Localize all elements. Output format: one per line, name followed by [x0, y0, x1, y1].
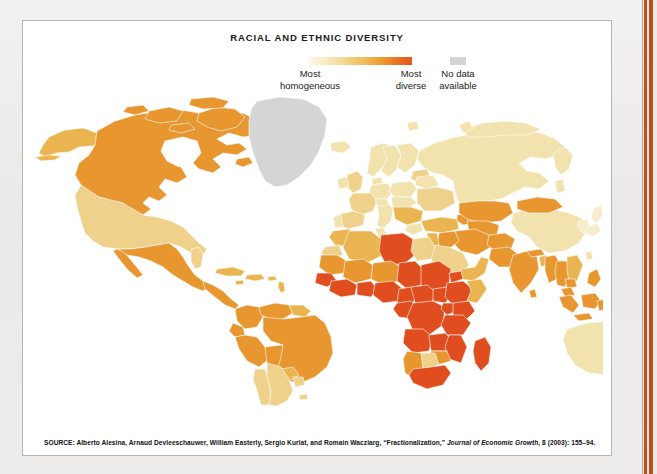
region-greenland-no-data [249, 97, 327, 187]
source-suffix: , 8 (2003): 155–94. [538, 439, 595, 446]
region-madagascar [473, 337, 491, 371]
region-china [511, 209, 587, 253]
legend-nodata-line2: available [418, 80, 498, 92]
region-falklands [299, 394, 308, 400]
region-siberia-north [463, 121, 541, 137]
region-sri-lanka [529, 289, 537, 298]
region-central-america [203, 281, 239, 309]
region-sulawesi [597, 299, 603, 311]
region-iceland [331, 141, 351, 153]
region-hispaniola [245, 274, 265, 281]
region-greece [405, 223, 423, 235]
region-philippines [587, 269, 601, 287]
region-kamchatka [553, 147, 573, 175]
region-united-kingdom [347, 171, 363, 193]
legend-label-nodata: No data available [418, 68, 498, 91]
region-peru [235, 335, 269, 367]
region-svalbard [407, 121, 419, 131]
region-japan [591, 205, 603, 223]
legend-nodata-swatch [450, 57, 466, 65]
region-jamaica [235, 280, 244, 285]
region-india [509, 251, 539, 293]
region-balkans [393, 207, 423, 225]
edge-stripe-1 [642, 0, 643, 474]
region-egypt [411, 237, 435, 261]
region-portugal [333, 215, 343, 228]
region-sakhalin [555, 179, 565, 193]
region-poland [389, 181, 417, 197]
region-alps-switzerland [375, 199, 389, 206]
region-chad [397, 261, 423, 289]
legend-gradient-bar [308, 57, 412, 65]
region-romania-ukraine [417, 187, 455, 211]
edge-stripe-5 [653, 0, 657, 474]
region-lesser-antilles [278, 281, 285, 293]
source-prefix: SOURCE: Alberto Alesina, Arnaud Devleesc… [44, 439, 447, 446]
region-niger [371, 261, 401, 285]
region-cuba [215, 267, 245, 276]
region-guyanas [289, 305, 311, 317]
region-java [573, 313, 593, 321]
region-south-africa [409, 365, 451, 389]
region-mauritania [319, 255, 347, 275]
region-ireland [337, 177, 349, 189]
region-libya [379, 233, 415, 265]
page-edge-stripes [639, 0, 657, 474]
region-newfoundland [235, 157, 253, 167]
region-australia [563, 321, 603, 375]
figure-title: RACIAL AND ETHNIC DIVERSITY [23, 32, 611, 43]
region-uruguay [293, 377, 305, 387]
region-finland [397, 143, 419, 173]
region-algeria [343, 231, 383, 263]
region-puerto-rico [267, 276, 277, 281]
source-citation: SOURCE: Alberto Alesina, Arnaud Devleesc… [44, 438, 597, 447]
region-taiwan [585, 251, 593, 260]
figure-frame: RACIAL AND ETHNIC DIVERSITY Most homogen… [22, 20, 612, 456]
region-cambodia [565, 279, 577, 288]
source-journal: Journal of Economic Growth [447, 439, 538, 446]
region-ellesmere-island [189, 97, 229, 109]
region-turkey [421, 217, 459, 233]
world-map-svg [31, 97, 603, 407]
legend-nodata-line1: No data [418, 68, 498, 80]
region-victoria-island [145, 107, 183, 123]
region-aleutians [35, 155, 61, 161]
region-venezuela [259, 303, 293, 319]
world-choropleth-map [31, 97, 603, 407]
region-sumatra [559, 295, 579, 313]
